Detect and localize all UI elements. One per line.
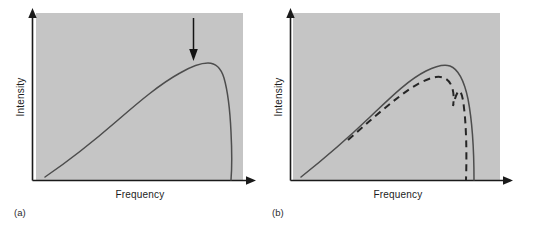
panel-b-x-axis-arrow-icon	[503, 176, 513, 184]
panel-a-plot-area	[36, 13, 243, 180]
panel-a-x-axis-label: Frequency	[115, 189, 164, 200]
panel-b-caption: (b)	[272, 207, 284, 218]
panel-b-plot-area	[293, 13, 500, 180]
panel-a-caption: (a)	[14, 207, 26, 218]
panel-a: Intensity Frequency (a)	[14, 8, 256, 218]
panel-b: Intensity Frequency (b)	[272, 8, 513, 218]
two-panel-blackbody-figure: Intensity Frequency (a) Intensity Freque…	[0, 0, 536, 226]
panel-b-y-axis-label: Intensity	[273, 77, 284, 116]
panel-a-y-axis-arrow-icon	[28, 8, 36, 18]
panel-a-x-axis-arrow-icon	[246, 176, 256, 184]
panel-b-x-axis-label: Frequency	[373, 189, 422, 200]
panel-a-y-axis-label: Intensity	[15, 77, 26, 116]
